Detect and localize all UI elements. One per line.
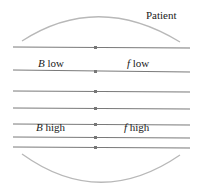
- center-marker: [94, 107, 97, 110]
- center-marker: [94, 70, 97, 73]
- patient-label: Patient: [146, 9, 177, 21]
- center-markers: [94, 46, 97, 149]
- field-line: [13, 47, 190, 48]
- center-marker: [94, 146, 97, 149]
- low-text: low: [45, 57, 64, 69]
- high-text: high: [43, 121, 65, 133]
- field-line: [13, 108, 190, 109]
- b-high-label: B high: [36, 121, 65, 133]
- field-line: [13, 147, 190, 148]
- f-low-label: f low: [127, 57, 149, 69]
- b-low-label: B low: [38, 57, 64, 69]
- field-line: [13, 137, 190, 138]
- f-high-label: f high: [124, 121, 149, 133]
- mri-field-gradient-diagram: Patient B low f low B high f high: [0, 0, 200, 192]
- high-text: high: [127, 121, 149, 133]
- diagram-graphics: [0, 0, 200, 192]
- center-marker: [94, 46, 97, 49]
- center-marker: [94, 90, 97, 93]
- low-text: low: [130, 57, 149, 69]
- patient-outline-bottom-arc: [22, 154, 180, 182]
- center-marker: [94, 123, 97, 126]
- center-marker: [94, 136, 97, 139]
- b-variable: B: [38, 57, 45, 69]
- field-line: [13, 70, 190, 72]
- b-variable: B: [36, 121, 43, 133]
- field-line: [13, 91, 190, 92]
